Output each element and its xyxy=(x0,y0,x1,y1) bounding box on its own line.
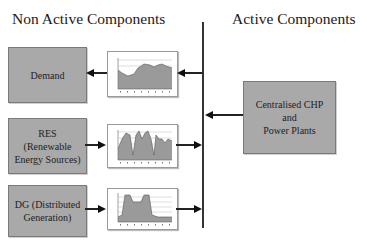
flow-arrows xyxy=(0,0,367,242)
